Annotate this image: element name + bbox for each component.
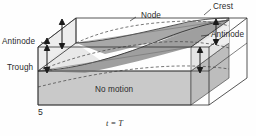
figure-standing-wave: Node Crest Antinode Antinode Trough No m… — [0, 0, 256, 136]
label-crest: Crest — [213, 3, 233, 11]
label-node: Node — [141, 12, 161, 20]
label-antinode-left: Antinode — [2, 38, 35, 46]
label-antinode-right: Antinode — [211, 31, 244, 39]
figure-number: 5 — [38, 108, 43, 117]
figure-caption: t = T — [106, 119, 123, 128]
label-no-motion: No motion — [95, 86, 133, 94]
label-trough: Trough — [7, 64, 33, 72]
leader-crest — [204, 9, 211, 15]
